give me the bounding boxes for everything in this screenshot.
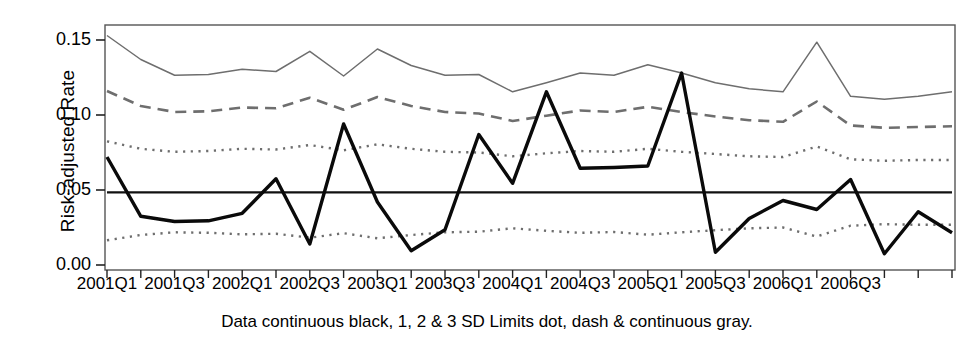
- series-data: [107, 73, 952, 254]
- y-tick-label: 0.10: [29, 105, 91, 123]
- risk-adjusted-rate-chart: Risk-adjusted Rate 0.000.050.100.15 2001…: [0, 0, 974, 346]
- x-tick-label: 2005Q3: [685, 275, 746, 292]
- y-tick-label: 0.15: [29, 30, 91, 48]
- series-2-sd-limit: [107, 91, 952, 128]
- series-3-sd-limit: [107, 36, 952, 100]
- x-tick-label: 2001Q3: [144, 275, 205, 292]
- x-tick-label: 2003Q1: [347, 275, 408, 292]
- chart-caption: Data continuous black, 1, 2 & 3 SD Limit…: [0, 312, 974, 332]
- x-tick-label: 2006Q1: [753, 275, 814, 292]
- plot-svg: [0, 0, 974, 346]
- x-tick-label: 2001Q1: [77, 275, 138, 292]
- x-tick-label: 2004Q3: [550, 275, 611, 292]
- series-1-sd-limit-upper: [107, 141, 952, 161]
- x-tick-label: 2003Q3: [415, 275, 476, 292]
- x-tick-label: 2006Q3: [820, 275, 881, 292]
- y-tick-label: 0.05: [29, 180, 91, 198]
- x-tick-label: 2005Q1: [618, 275, 679, 292]
- series-1-sd-limit-lower: [107, 224, 952, 240]
- x-tick-label: 2002Q1: [212, 275, 273, 292]
- x-tick-label: 2004Q1: [482, 275, 543, 292]
- y-tick-label: 0.00: [29, 255, 91, 273]
- x-tick-label: 2002Q3: [280, 275, 341, 292]
